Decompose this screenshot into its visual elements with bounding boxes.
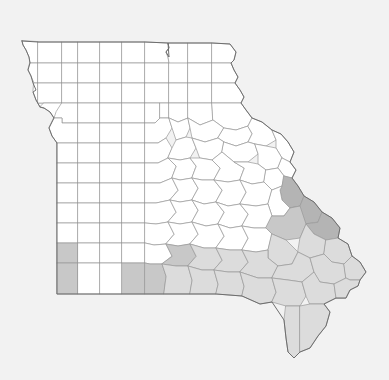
county-camden-north[interactable] (122, 183, 145, 203)
county-cooper[interactable] (122, 143, 145, 163)
county-bates[interactable] (57, 183, 78, 203)
county-ray-north[interactable] (78, 103, 100, 123)
county-henry[interactable] (78, 183, 100, 203)
county-carroll[interactable] (100, 103, 122, 123)
county-lawrence-dade[interactable] (78, 223, 100, 243)
county-barry[interactable] (78, 263, 100, 294)
county-monroe-north[interactable] (188, 83, 212, 103)
county-gentry[interactable] (62, 63, 78, 83)
county-ripley[interactable] (214, 270, 244, 296)
county-johnson[interactable] (78, 163, 100, 183)
county-sullivan[interactable] (122, 63, 145, 83)
county-stone[interactable] (100, 263, 122, 294)
county-cedar-dade[interactable] (78, 203, 100, 223)
county-dallas-laclede[interactable] (122, 203, 145, 223)
county-lafayette-north[interactable] (100, 123, 122, 143)
county-oregon-south[interactable] (188, 266, 218, 294)
county-livingston[interactable] (100, 83, 122, 103)
county-greene[interactable] (100, 223, 122, 243)
county-shelby[interactable] (169, 83, 188, 103)
county-knox[interactable] (169, 63, 188, 83)
map-svg-canvas (0, 0, 389, 380)
county-vernon[interactable] (57, 203, 78, 223)
county-schuyler[interactable] (145, 42, 169, 63)
county-andrew-area[interactable] (38, 63, 62, 83)
county-jasper-newton[interactable] (57, 243, 78, 263)
missouri-county-choropleth-map (0, 0, 389, 380)
county-scotland[interactable] (166, 43, 188, 63)
county-dekalb[interactable] (62, 83, 78, 103)
county-lewis[interactable] (188, 63, 212, 83)
county-stoddard[interactable] (272, 278, 306, 306)
county-clay-ray[interactable] (78, 123, 100, 143)
county-pettis[interactable] (100, 163, 122, 183)
county-douglas[interactable] (122, 243, 145, 263)
county-harrison[interactable] (78, 42, 100, 63)
county-webster[interactable] (122, 223, 145, 243)
county-chariton-north[interactable] (122, 103, 145, 123)
county-worth-area[interactable] (62, 42, 78, 63)
county-johnson-north[interactable] (78, 143, 100, 163)
county-adair[interactable] (145, 63, 169, 83)
county-grundy[interactable] (100, 63, 122, 83)
county-lawrence[interactable] (78, 243, 100, 263)
county-monroe-small[interactable] (160, 103, 169, 118)
county-jackson[interactable] (57, 143, 78, 163)
county-mcdonald-newton[interactable] (57, 263, 78, 294)
county-putnam[interactable] (122, 42, 145, 63)
county-cass[interactable] (57, 163, 78, 183)
county-christian[interactable] (100, 243, 122, 263)
county-saline-north[interactable] (122, 123, 145, 143)
county-benton-morgan[interactable] (122, 163, 145, 183)
county-buchanan-north[interactable] (38, 83, 62, 103)
county-polk[interactable] (100, 203, 122, 223)
county-taney[interactable] (122, 263, 145, 294)
county-nodaway[interactable] (38, 42, 62, 63)
county-macon[interactable] (145, 83, 169, 103)
county-linn[interactable] (122, 83, 145, 103)
county-st-clair-hickory[interactable] (100, 183, 122, 203)
county-caldwell[interactable] (78, 83, 100, 103)
county-daviess[interactable] (78, 63, 100, 83)
county-barton[interactable] (57, 223, 78, 243)
county-clark[interactable] (188, 43, 212, 63)
county-pettis-north[interactable] (100, 143, 122, 163)
county-mercer[interactable] (100, 42, 122, 63)
county-howell-south[interactable] (162, 264, 192, 294)
